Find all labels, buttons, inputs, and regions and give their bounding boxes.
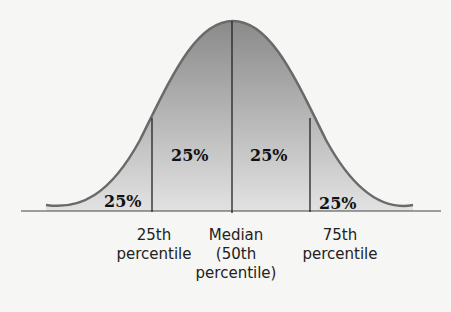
median-label-line1: Median xyxy=(180,226,292,245)
region-label-2: 25% xyxy=(171,146,208,165)
region-label-1: 25% xyxy=(104,192,141,211)
median-label: Median (50th percentile) xyxy=(180,226,292,283)
median-label-line2: (50th xyxy=(180,245,292,264)
q3-label-line2: percentile xyxy=(284,245,396,264)
region-label-4: 25% xyxy=(319,194,356,213)
region-label-3: 25% xyxy=(250,146,287,165)
q3-label: 75th percentile xyxy=(284,226,396,264)
median-label-line3: percentile) xyxy=(180,264,292,283)
curve-area xyxy=(46,21,413,211)
q3-label-line1: 75th xyxy=(284,226,396,245)
